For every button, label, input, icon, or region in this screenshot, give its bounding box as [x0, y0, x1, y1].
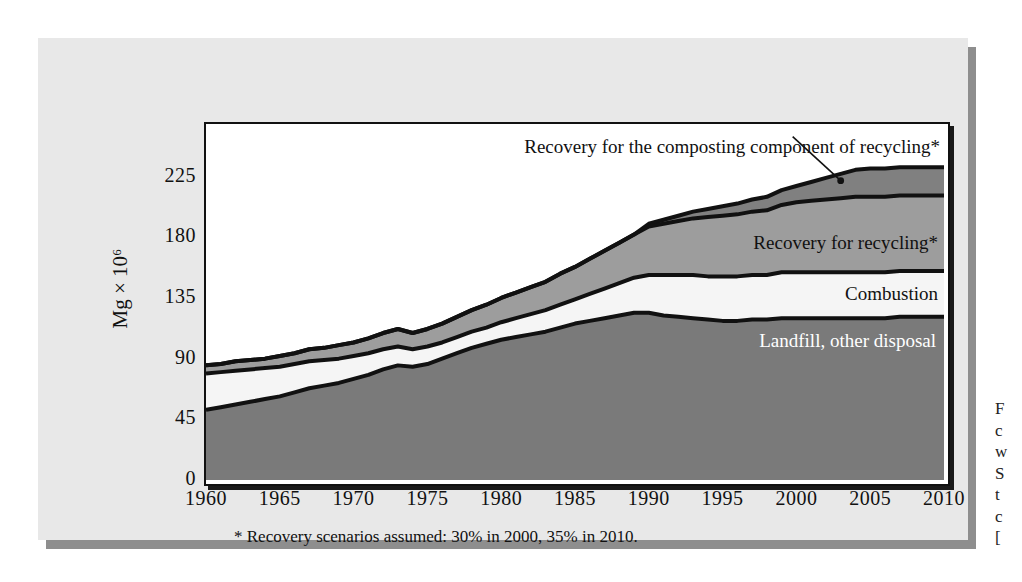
- side-caption-line: c: [995, 506, 1022, 528]
- x-tick-label: 2000: [775, 487, 817, 510]
- side-caption-line: [: [995, 527, 1022, 549]
- x-tick-label: 1975: [406, 487, 448, 510]
- plot-area: Recovery for the composting component of…: [204, 122, 950, 486]
- side-caption-line: F: [995, 398, 1022, 420]
- y-tick-label: 225: [130, 164, 196, 187]
- x-tick-label: 1995: [702, 487, 744, 510]
- side-caption-line: c: [995, 420, 1022, 442]
- band-label-3: Recovery for the composting component of…: [524, 136, 940, 158]
- x-tick-label: 2005: [849, 487, 891, 510]
- side-caption-line: t: [995, 484, 1022, 506]
- band-label-1: Combustion: [845, 283, 938, 305]
- x-tick-label: 1985: [554, 487, 596, 510]
- footnote: * Recovery scenarios assumed: 30% in 200…: [234, 527, 638, 547]
- band-label-0: Landfill, other disposal: [759, 330, 936, 352]
- annotation-anchor-dot: [837, 177, 844, 184]
- x-tick-label: 1970: [333, 487, 375, 510]
- y-tick-label: 180: [130, 224, 196, 247]
- x-tick-label: 1990: [628, 487, 670, 510]
- x-tick-label: 1960: [185, 487, 227, 510]
- side-caption-line: w: [995, 441, 1022, 463]
- side-caption-line: S: [995, 463, 1022, 485]
- y-tick-label: 90: [130, 346, 196, 369]
- figure-panel: Mg × 10⁶ 04590135180225 Recovery for the…: [38, 38, 968, 540]
- x-tick-label: 2010: [923, 487, 965, 510]
- band-label-2: Recovery for recycling*: [753, 232, 938, 254]
- y-tick-label: 135: [130, 285, 196, 308]
- y-tick-label: 45: [130, 406, 196, 429]
- stacked-area-chart: [206, 124, 944, 480]
- side-caption: FcwStc[: [995, 398, 1022, 549]
- y-axis-tick-labels: 04590135180225: [130, 122, 196, 482]
- x-tick-label: 1965: [259, 487, 301, 510]
- x-tick-label: 1980: [480, 487, 522, 510]
- x-axis-tick-labels: 1960196519701975198019851990199520002005…: [204, 487, 946, 517]
- y-axis-title: Mg × 10⁶: [108, 199, 133, 379]
